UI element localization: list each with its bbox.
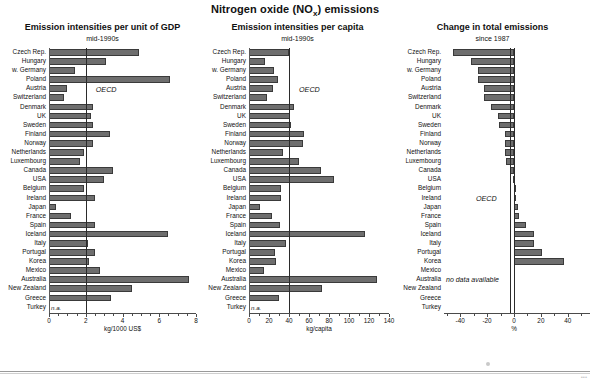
category-label: Netherlands [0, 147, 46, 156]
data-bar [249, 295, 279, 302]
data-bar [249, 158, 299, 165]
category-label: France [200, 211, 246, 220]
data-bar [49, 176, 104, 183]
category-label: Italy [200, 238, 246, 247]
chart-row: Turkey [395, 303, 590, 312]
axis-minor-tick [141, 314, 142, 316]
category-label: Greece [395, 293, 441, 302]
axis-minor-tick [168, 314, 169, 316]
category-label: Ireland [395, 193, 441, 202]
axis-minor-tick [581, 314, 582, 316]
data-bar [249, 113, 290, 120]
category-label: Poland [200, 74, 246, 83]
data-bar [49, 158, 80, 165]
category-rows: Czech Rep.Hungaryw. GermanyPolandAustria… [200, 48, 395, 312]
data-bar [49, 58, 106, 65]
axis-minor-tick [279, 314, 280, 316]
category-label: Australia [395, 274, 441, 283]
oecd-label: OECD [299, 85, 320, 94]
axis-tick-label: 20 [529, 317, 553, 324]
category-label: Finland [395, 129, 441, 138]
page-title-tail: ) emissions [317, 3, 379, 15]
category-label: Japan [395, 202, 441, 211]
category-label: Mexico [0, 265, 46, 274]
axis-minor-tick [132, 314, 133, 316]
category-label: Austria [0, 83, 46, 92]
data-bar [514, 231, 534, 238]
category-label: w. Germany [395, 65, 441, 74]
axis-minor-tick [104, 314, 105, 316]
category-label: Canada [200, 165, 246, 174]
axis-minor-tick [447, 314, 448, 316]
category-label: Spain [0, 220, 46, 229]
category-label: Iceland [395, 229, 441, 238]
category-label: France [395, 211, 441, 220]
category-label: Norway [395, 138, 441, 147]
data-bar [249, 131, 304, 138]
axis-minor-tick [259, 314, 260, 316]
category-label: Portugal [395, 247, 441, 256]
category-label: Belgium [0, 183, 46, 192]
category-label: Luxembourg [200, 156, 246, 165]
panel1-plot: Czech Rep.Hungaryw. GermanyPolandAustria… [0, 48, 205, 312]
data-bar [49, 195, 95, 202]
data-bar [471, 58, 514, 65]
category-label: Luxembourg [0, 156, 46, 165]
page-title: Nitrogen oxide (NOx) emissions [0, 3, 590, 18]
data-bar [249, 122, 291, 129]
panel1-subtitle: mid-1990s [0, 34, 205, 44]
data-bar [49, 285, 132, 292]
panel-change-total: Change in total emissions since 1987 Cze… [395, 22, 590, 362]
data-bar [49, 267, 100, 274]
category-label: Canada [395, 165, 441, 174]
category-label: Turkey [200, 302, 246, 311]
data-bar [249, 140, 303, 147]
category-label: Switzerland [200, 92, 246, 101]
category-label: Japan [200, 202, 246, 211]
category-label: Turkey [0, 302, 46, 311]
axis-tick-label: 0 [37, 317, 61, 324]
oecd-reference-line [289, 48, 290, 313]
category-label: Ireland [200, 193, 246, 202]
data-bar [249, 149, 283, 156]
data-bar [249, 213, 272, 220]
chart-row: Turkeyn.a. [200, 303, 395, 312]
data-bar [249, 195, 281, 202]
axis-minor-tick [474, 314, 475, 316]
panel-gdp-intensity: Emission intensities per unit of GDP mid… [0, 22, 205, 362]
category-label: Czech Rep. [200, 47, 246, 56]
data-bar [499, 122, 514, 129]
data-bar [49, 213, 71, 220]
axis-minor-tick [319, 314, 320, 316]
data-bar [249, 276, 377, 283]
category-label: Iceland [200, 229, 246, 238]
oecd-reference-line [510, 48, 511, 313]
axis-minor-tick [554, 314, 555, 316]
category-label: USA [395, 174, 441, 183]
category-label: UK [395, 111, 441, 120]
data-bar [49, 249, 95, 256]
axis-tick-label: 40 [556, 317, 580, 324]
panel3-subtitle: since 1987 [395, 34, 590, 44]
data-bar [249, 85, 273, 92]
category-label: Japan [0, 202, 46, 211]
data-bar [249, 76, 278, 83]
category-label: Greece [200, 293, 246, 302]
data-bar [498, 113, 514, 120]
category-label: Hungary [0, 56, 46, 65]
data-bar [49, 185, 84, 192]
data-bar [249, 285, 322, 292]
data-bar [478, 76, 514, 83]
category-label: UK [0, 111, 46, 120]
category-label: Ireland [0, 193, 46, 202]
footer-divider [0, 371, 590, 372]
category-label: Portugal [200, 247, 246, 256]
data-bar [249, 249, 275, 256]
data-bar [249, 94, 267, 101]
category-label: Australia [200, 274, 246, 283]
category-label: USA [0, 174, 46, 183]
x-axis-title: kg/1000 US$ [63, 325, 183, 332]
axis-minor-tick [58, 314, 59, 316]
axis-tick-label: 2 [74, 317, 98, 324]
data-bar [249, 49, 289, 56]
